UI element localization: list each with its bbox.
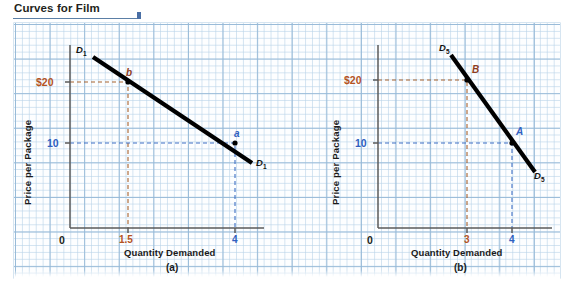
- data-point-B: [464, 77, 469, 82]
- guide-line-b: [70, 82, 128, 228]
- curve-label-d5-end-sub: 5: [541, 176, 545, 183]
- y-tick-label-10-b: 10: [355, 138, 367, 149]
- x-tick-label-0-a: 0: [59, 235, 65, 246]
- y-tick-label-20-b: $20: [344, 75, 362, 86]
- x-tick-label-3-b: 3: [464, 235, 470, 245]
- x-tick-label-15-a: 1.5: [119, 235, 133, 245]
- point-label-a: a: [234, 129, 240, 139]
- data-point-A: [509, 140, 514, 145]
- curve-label-d1-top: D1: [76, 45, 87, 57]
- point-label-B: B: [472, 65, 479, 75]
- y-tick-label-20-a: $20: [36, 77, 54, 88]
- curve-label-d5-end-text: D: [534, 170, 541, 181]
- data-point-b: [125, 79, 130, 84]
- y-tick-label-10-a: 10: [47, 138, 59, 149]
- title-end-marker: [137, 12, 141, 19]
- page-title: Curves for Film: [14, 2, 100, 14]
- x-axis-title-b: Quantity Demanded: [411, 248, 502, 258]
- data-point-a: [232, 140, 237, 145]
- guide-line-B: [378, 80, 467, 228]
- chart-panel-b: Price per Package $20 10 0 3 4 B A D5 D5…: [294, 23, 560, 278]
- demand-curve-d1: [93, 57, 252, 163]
- title-underline: [13, 18, 138, 19]
- x-tick-label-0-b: 0: [367, 235, 373, 246]
- curve-label-d1-top-text: D: [76, 44, 83, 55]
- figure-root: Curves for Film Price per Packa: [0, 0, 571, 289]
- point-label-b: b: [126, 68, 132, 78]
- panel-id-a: (a): [166, 263, 178, 273]
- curve-label-d5-end: D5: [534, 171, 545, 183]
- chart-panel-a: Price per Package $20 10 0 1.5 4 b a D1 …: [14, 23, 294, 278]
- guide-line-a: [70, 143, 235, 228]
- panel-id-b: (b): [454, 263, 467, 273]
- chart-a-svg: [14, 23, 294, 278]
- curve-label-d1-top-sub: 1: [83, 50, 87, 57]
- curve-label-d1-end: D1: [256, 158, 267, 170]
- point-label-A: A: [516, 127, 523, 137]
- x-tick-label-4-a: 4: [232, 235, 238, 245]
- curve-label-d5-top-text: D: [439, 42, 446, 53]
- demand-curve-d5: [451, 55, 535, 172]
- x-axis-title-a: Quantity Demanded: [124, 248, 215, 258]
- curve-label-d1-end-sub: 1: [263, 163, 267, 170]
- curve-label-d5-top-sub: 5: [446, 48, 450, 55]
- title-bar: Curves for Film: [0, 0, 571, 22]
- curve-label-d1-end-text: D: [256, 157, 263, 168]
- y-axis-title-a: Price per Package: [23, 120, 33, 205]
- curve-label-d5-top: D5: [439, 43, 450, 55]
- y-axis-title-b: Price per Package: [331, 120, 341, 205]
- x-tick-label-4-b: 4: [509, 235, 515, 245]
- guide-line-A: [378, 143, 512, 228]
